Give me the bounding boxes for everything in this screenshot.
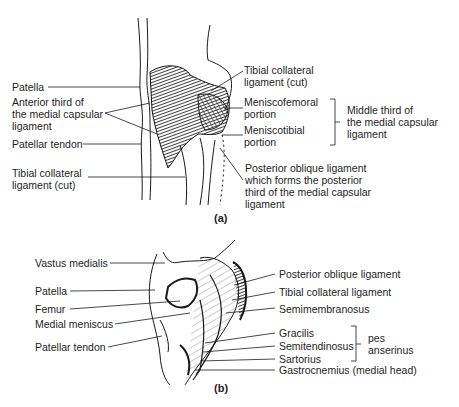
label-tibial-collateral-b: Tibial collateral ligament bbox=[279, 286, 391, 298]
label-tibial-collateral-cut-left: Tibial collateral ligament (cut) bbox=[12, 167, 82, 191]
label-patellar-tendon-a: Patellar tendon bbox=[12, 138, 83, 150]
label-semitendinosus: Semitendinosus bbox=[279, 340, 354, 352]
label-gracilis: Gracilis bbox=[279, 327, 314, 339]
label-meniscotibial: Meniscotibial portion bbox=[244, 124, 305, 148]
label-posterior-oblique-b: Posterior oblique ligament bbox=[279, 268, 400, 280]
label-femur: Femur bbox=[35, 303, 65, 315]
label-posterior-oblique-a: Posterior oblique ligament which forms t… bbox=[245, 162, 371, 210]
label-anterior-third: Anterior third of the medial capsular li… bbox=[12, 96, 103, 132]
label-gastrocnemius: Gastrocnemius (medial head) bbox=[279, 364, 417, 376]
caption-b: (b) bbox=[214, 382, 228, 394]
label-patellar-tendon-b: Patellar tendon bbox=[35, 341, 106, 353]
label-patella-b: Patella bbox=[35, 285, 67, 297]
label-middle-third: Middle third of the medial capsular liga… bbox=[347, 104, 438, 140]
label-vastus-medialis: Vastus medialis bbox=[35, 257, 108, 269]
label-patella-a: Patella bbox=[12, 81, 44, 93]
label-semimembranosus: Semimembranosus bbox=[279, 303, 369, 315]
label-meniscofemoral: Meniscofemoral portion bbox=[244, 96, 318, 120]
label-medial-meniscus: Medial meniscus bbox=[35, 318, 113, 330]
label-pes-anserinus: pes anserinus bbox=[368, 332, 414, 356]
caption-a: (a) bbox=[214, 212, 227, 224]
label-tibial-collateral-cut-right: Tibial collateral ligament (cut) bbox=[244, 64, 314, 88]
